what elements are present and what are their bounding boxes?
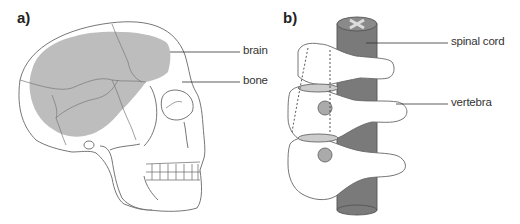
brain-annotation: brain [243, 44, 268, 56]
vertebra-annotation: vertebra [451, 96, 492, 108]
diagram-canvas [0, 0, 520, 224]
spine-illustration [288, 17, 407, 215]
spinal-cord-annotation: spinal cord [451, 35, 504, 47]
panel-b-label: b) [283, 9, 297, 26]
bone-annotation: bone [243, 74, 268, 86]
skull-illustration [19, 22, 205, 212]
panel-a-label: a) [17, 9, 30, 26]
